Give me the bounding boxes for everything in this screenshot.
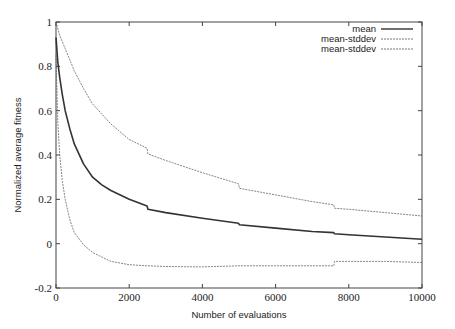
x-tick-label: 0 [53,291,59,303]
series-line-0 [56,38,422,240]
y-axis: -0.200.20.40.60.81 [35,16,422,294]
plot-frame [56,22,422,288]
y-tick-label: 0 [47,238,53,250]
x-axis-label: Number of evaluations [191,309,286,320]
x-axis: 0200040006000800010000 [53,22,436,303]
y-tick-label: 1 [47,16,53,28]
x-tick-label: 2000 [118,291,141,303]
y-tick-label: 0.4 [38,149,52,161]
x-tick-label: 10000 [408,291,436,303]
y-axis-label: Normalized average fitness [12,97,23,212]
y-tick-label: 0.6 [38,105,52,117]
legend: mean mean-stddev mean-stddev [321,23,413,54]
legend-label-2: mean-stddev [321,43,376,54]
y-tick-label: 0.8 [38,60,52,72]
x-tick-label: 8000 [338,291,361,303]
x-tick-label: 4000 [191,291,214,303]
y-tick-label: -0.2 [35,282,52,294]
y-tick-label: 0.2 [38,193,52,205]
line-chart: -0.200.20.40.60.81 020004000600080001000… [0,0,455,329]
x-tick-label: 6000 [265,291,288,303]
series-group [56,22,422,267]
